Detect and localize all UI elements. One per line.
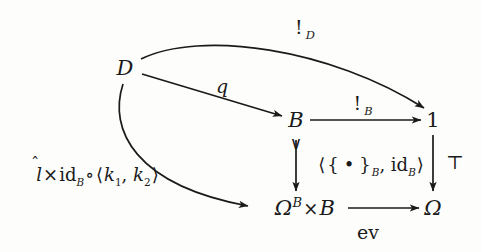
bang-glyph: ! <box>353 92 361 114</box>
edge-d-to-b <box>142 74 282 116</box>
bang-glyph: ! <box>295 16 303 38</box>
node-D: D <box>116 58 133 79</box>
edge-label-q: q <box>216 77 228 96</box>
edge-label-ev: ev <box>357 223 379 242</box>
bang-subscript-B: B <box>361 103 372 117</box>
k1-symbol: k <box>104 164 115 185</box>
commutative-diagram: 1 : long arc over the top --> B : straig… <box>0 0 482 252</box>
identity-subscript-B: B <box>408 166 416 178</box>
arrow-layer: 1 : long arc over the top --> B : straig… <box>0 0 482 252</box>
l-letter: l <box>36 164 42 185</box>
brace-close: } <box>358 154 371 175</box>
brace-open: { <box>326 154 339 175</box>
node-omega-base: Ω <box>275 196 293 220</box>
mono-arrowhead-icon: ∨ <box>290 135 302 152</box>
edge-label-left-composite: ̂l×idB∘⟨k1, k2⟩ <box>36 166 159 184</box>
node-product-tail: B <box>320 196 336 220</box>
pair-comma: , <box>379 154 390 175</box>
edge-d-to-omegaB <box>119 84 248 206</box>
identity-morphism: id <box>391 154 408 175</box>
edge-label-bang-B: !B <box>353 94 372 113</box>
k2-symbol: k <box>133 164 144 185</box>
node-product-times: × <box>302 198 319 219</box>
angle-open: ⟨ <box>317 154 326 175</box>
times-operator: × <box>42 164 59 185</box>
node-omega-exp-B-times-B: ΩB×B <box>275 198 335 219</box>
node-omega-exponent: B <box>292 195 302 210</box>
edge-d-to-one <box>141 45 424 108</box>
bullet-dot-icon: • <box>340 154 359 175</box>
node-omega: Ω <box>424 198 442 219</box>
edge-label-bang-D: !D <box>295 18 315 37</box>
identity-subscript-B: B <box>76 176 84 188</box>
edge-label-top-true: ⊤ <box>446 153 464 172</box>
bang-subscript-D: D <box>303 27 315 41</box>
angle-open: ⟨ <box>95 164 104 185</box>
edge-label-singleton-pairing: ⟨{•}B, idB⟩ <box>317 156 425 174</box>
node-terminal-one: 1 <box>426 110 440 131</box>
angle-close: ⟩ <box>151 164 160 185</box>
pair-comma: , <box>122 164 133 185</box>
l-hat-symbol: ̂l <box>36 166 42 184</box>
node-B: B <box>288 110 304 131</box>
angle-close: ⟩ <box>416 154 425 175</box>
composition-operator: ∘ <box>84 164 95 185</box>
identity-morphism: id <box>59 164 76 185</box>
